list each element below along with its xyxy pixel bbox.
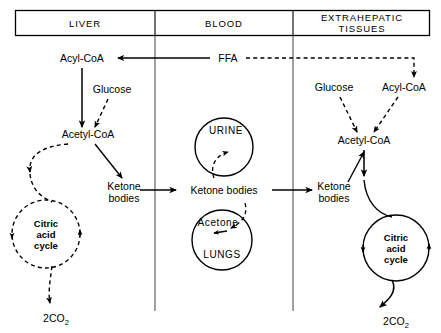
connector-extrahepatic-cycle-entry — [364, 180, 392, 217]
ketone-body-metabolism-diagram: LIVER BLOOD EXTRAHEPATIC TISSUES FFA Acy… — [0, 0, 441, 333]
arrow-extrahepatic-cycle-to-co2 — [380, 280, 394, 307]
extrahepatic-cycle-label-line2: acid — [386, 243, 405, 254]
node-ffa: FFA — [218, 52, 237, 64]
extrahepatic-compartment-group: Glucose Acyl-CoA Acetyl-CoA Ketone bodie… — [315, 81, 429, 330]
arrow-extrahepatic-acyl-coa-to-acetyl-coa — [374, 97, 398, 132]
node-urine-label: URINE — [209, 125, 243, 136]
liver-cycle-label-line1: Citric — [34, 218, 58, 229]
arrow-liver-glucose-to-acetyl-coa — [95, 99, 108, 127]
node-extrahepatic-ketone-bodies-line1: Ketone — [317, 180, 350, 192]
arrow-ffa-to-extrahepatic-acyl-coa — [246, 58, 414, 77]
compartment-header-bar: LIVER BLOOD EXTRAHEPATIC TISSUES — [16, 11, 430, 36]
node-blood-ketone-bodies: Ketone bodies — [190, 184, 257, 196]
connector-liver-cycle-entry — [30, 174, 52, 202]
compartment-title-liver: LIVER — [69, 18, 101, 29]
arrow-liver-cycle-to-co2 — [49, 266, 52, 303]
node-acetone-label: Acetone — [198, 217, 239, 228]
node-extrahepatic-acyl-coa: Acyl-CoA — [382, 81, 426, 93]
node-liver-glucose: Glucose — [93, 83, 132, 95]
arrow-extrahepatic-glucose-to-acetyl-coa — [340, 97, 357, 132]
compartment-title-extrahepatic-line2: TISSUES — [339, 23, 386, 34]
compartment-title-extrahepatic-line1: EXTRAHEPATIC — [321, 12, 403, 23]
node-liver-ketone-bodies-line1: Ketone — [107, 180, 140, 192]
node-extrahepatic-glucose: Glucose — [315, 81, 354, 93]
liver-cycle-label-line3: cycle — [34, 240, 58, 251]
node-extrahepatic-acetyl-coa: Acetyl-CoA — [338, 134, 391, 146]
arrow-extrahepatic-ketone-bodies-to-acetyl-coa — [348, 152, 364, 182]
node-lungs-label: LUNGS — [203, 249, 240, 260]
compartment-title-blood: BLOOD — [205, 18, 243, 29]
blood-compartment-group: Ketone bodies URINE Acetone LUNGS — [140, 118, 312, 270]
liver-compartment-group: Acyl-CoA Glucose Acetyl-CoA Ketone bodie… — [12, 52, 141, 327]
diagram-canvas: LIVER BLOOD EXTRAHEPATIC TISSUES FFA Acy… — [0, 0, 441, 333]
node-liver-acetyl-coa: Acetyl-CoA — [62, 128, 115, 140]
extrahepatic-cycle-label-line1: Citric — [384, 232, 408, 243]
arrow-liver-acetyl-coa-to-ketone-bodies — [95, 144, 122, 178]
node-liver-acyl-coa: Acyl-CoA — [60, 52, 104, 64]
node-liver-ketone-bodies-line2: bodies — [109, 192, 140, 204]
liver-cycle-label-line2: acid — [36, 229, 55, 240]
node-extrahepatic-ketone-bodies-line2: bodies — [319, 192, 350, 204]
arrow-liver-acetyl-coa-to-cycle — [30, 144, 68, 172]
node-extrahepatic-co2: 2CO2 — [383, 315, 409, 330]
extrahepatic-cycle-label-line3: cycle — [384, 254, 408, 265]
node-liver-co2: 2CO2 — [43, 312, 69, 327]
arrow-acetone-exhaled — [214, 231, 227, 233]
